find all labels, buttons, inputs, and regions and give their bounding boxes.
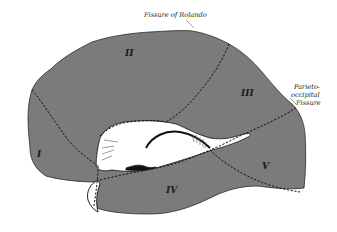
region-label-II: II (124, 48, 134, 58)
parieto-occipital-label-line3: Fissure (295, 99, 321, 107)
fissure-of-rolando-label: Fissure of Rolando (143, 11, 207, 19)
rolando-pointer (186, 20, 194, 28)
parieto-occipital-label-line2: occipital (291, 91, 319, 99)
region-label-III: III (240, 88, 254, 98)
region-label-V: V (262, 161, 270, 171)
parieto-occipital-label-line1: Parieto- (293, 83, 320, 91)
region-label-IV: IV (165, 185, 178, 195)
brain-medial-surface-diagram: Fissure of Rolando Parieto- occipital Fi… (0, 0, 337, 232)
region-label-I: I (36, 149, 42, 159)
